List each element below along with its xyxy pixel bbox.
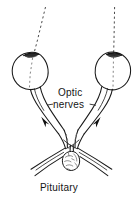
- left-eye: [12, 52, 48, 89]
- right-optic-tract: [78, 148, 112, 175]
- label-pituitary: Pituitary: [40, 182, 78, 193]
- pituitary-gland: [62, 151, 79, 170]
- label-nerves: nerves: [53, 99, 84, 110]
- right-optic-nerve: [78, 87, 112, 134]
- left-visual-axis: [29, 7, 45, 88]
- right-cornea: [106, 53, 122, 58]
- label-optic: Optic: [58, 87, 82, 98]
- right-visual-axis: [113, 7, 115, 88]
- optic-chiasm: [59, 130, 85, 149]
- optic-nerve-diagram: Optic nerves Pituitary: [0, 0, 137, 201]
- left-optic-tract: [31, 148, 65, 175]
- left-nerve-arrow: [41, 117, 49, 127]
- nerves-leader-left: [47, 104, 52, 105]
